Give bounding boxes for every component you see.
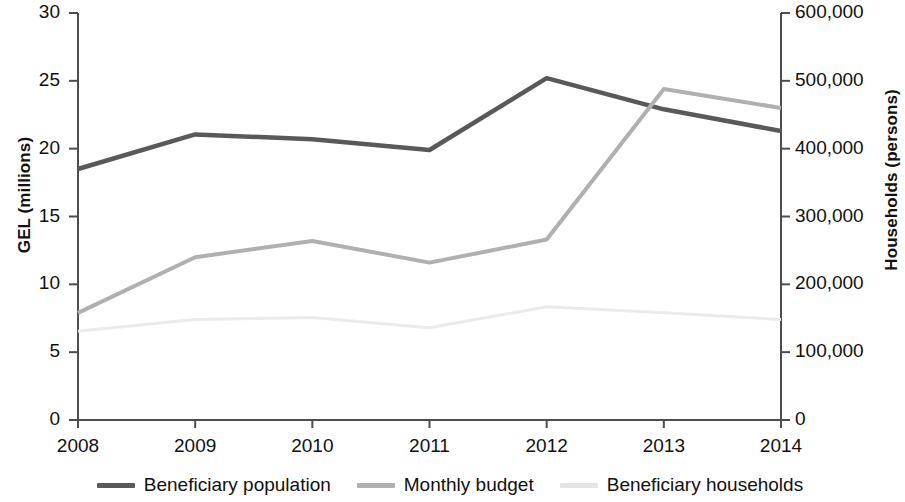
legend-label: Beneficiary households (607, 474, 803, 496)
legend-item[interactable]: Beneficiary households (560, 474, 803, 496)
series-line (78, 89, 781, 313)
legend-item[interactable]: Monthly budget (357, 474, 534, 496)
series-line (78, 307, 781, 331)
legend-label: Monthly budget (404, 474, 534, 496)
series-layer (78, 78, 781, 331)
legend-label: Beneficiary population (144, 474, 331, 496)
axis-lines (69, 13, 790, 428)
legend-swatch-icon (357, 483, 395, 488)
chart-legend: Beneficiary populationMonthly budgetBene… (0, 474, 900, 496)
legend-swatch-icon (97, 483, 135, 488)
legend-swatch-icon (560, 483, 598, 488)
legend-item[interactable]: Beneficiary population (97, 474, 331, 496)
